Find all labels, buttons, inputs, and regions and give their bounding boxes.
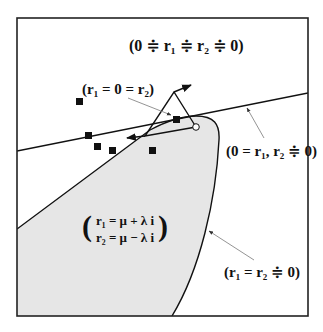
paren-close: ) bbox=[158, 209, 168, 243]
diagram-canvas: (0 ≑ r₁ ≑ r₂ ≑ 0) (r₁ = 0 = r₂) (0 = r₁,… bbox=[0, 0, 323, 332]
paren-open: ( bbox=[82, 209, 92, 243]
pointer-line-label bbox=[247, 108, 264, 138]
label-zero-line: (0 = r₁, r₂ ≑ 0) bbox=[226, 143, 317, 160]
label-equal-roots: (r₁ = r₂ ≑ 0) bbox=[224, 264, 300, 281]
label-complex-r1: r₁ = μ + λ i bbox=[96, 213, 154, 228]
tangent-point bbox=[193, 124, 200, 131]
label-complex-r2: r₂ = μ − λ i bbox=[96, 230, 154, 245]
label-all-nonzero: (0 ≑ r₁ ≑ r₂ ≑ 0) bbox=[129, 37, 244, 55]
label-double-zero: (r₁ = 0 = r₂) bbox=[82, 81, 154, 98]
pointer-curve-label bbox=[209, 231, 254, 260]
